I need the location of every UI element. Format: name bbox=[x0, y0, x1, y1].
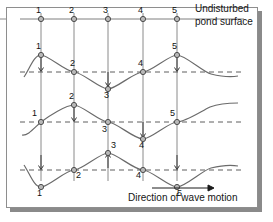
motion-arrow-1a bbox=[39, 56, 44, 72]
particle-label-3-1: 1 bbox=[37, 188, 42, 198]
particle-marker-1-5 bbox=[174, 52, 179, 57]
particle-label-1-5: 5 bbox=[172, 41, 177, 51]
wave-curve-row2 bbox=[22, 103, 238, 139]
particle-marker-0-1 bbox=[38, 16, 43, 21]
undisturbed-surface-label-line2: pond surface bbox=[195, 16, 253, 28]
particle-label-2-2: 2 bbox=[69, 91, 74, 101]
particle-label-2-3: 3 bbox=[102, 124, 107, 134]
wave-direction-arrow-head bbox=[208, 185, 214, 191]
particle-label-2-5: 5 bbox=[170, 108, 175, 118]
particle-marker-1-2 bbox=[71, 69, 76, 74]
particle-marker-3-3 bbox=[105, 150, 110, 155]
particle-label-3-4: 4 bbox=[136, 170, 141, 180]
particle-marker-0-5 bbox=[174, 16, 179, 21]
particle-label-0-5: 5 bbox=[172, 5, 177, 15]
particle-marker-0-4 bbox=[140, 16, 145, 21]
motion-arrow-1c bbox=[175, 56, 180, 72]
wave-direction-arrow-icon bbox=[152, 185, 214, 191]
particle-label-0-1: 1 bbox=[36, 5, 41, 15]
particle-label-1-1: 1 bbox=[36, 41, 41, 51]
particle-label-0-2: 2 bbox=[69, 5, 74, 15]
motion-arrow-2b bbox=[141, 122, 146, 138]
particle-label-0-3: 3 bbox=[103, 5, 108, 15]
particle-marker-1-1 bbox=[38, 52, 43, 57]
particle-label-3-2: 2 bbox=[76, 170, 81, 180]
motion-arrow-stubs-row1 bbox=[39, 56, 180, 87]
motion-arrow-3c bbox=[175, 155, 180, 170]
particle-label-2-4: 4 bbox=[139, 140, 144, 150]
motion-arrow-2a bbox=[72, 106, 77, 122]
particle-marker-2-5 bbox=[174, 119, 179, 124]
motion-arrow-1b bbox=[106, 72, 111, 87]
particle-label-1-4: 4 bbox=[138, 58, 143, 68]
undisturbed-surface-label-line1: Undisturbed bbox=[195, 3, 249, 15]
particle-label-3-3: 3 bbox=[111, 140, 116, 150]
particle-marker-2-2 bbox=[71, 102, 76, 107]
particle-label-2-1: 1 bbox=[32, 108, 37, 118]
particle-marker-2-1 bbox=[38, 119, 43, 124]
particle-marker-3-4 bbox=[140, 167, 145, 172]
particle-label-1-3: 3 bbox=[104, 90, 109, 100]
particle-marker-0-3 bbox=[105, 16, 110, 21]
particle-marker-1-4 bbox=[140, 69, 145, 74]
wave-diagram-figure: 1 2 3 4 5 1 2 3 4 5 1 2 3 4 5 1 2 3 4 5 … bbox=[0, 0, 273, 222]
motion-arrow-3a bbox=[39, 155, 44, 170]
particle-label-1-2: 2 bbox=[70, 58, 75, 68]
particle-marker-0-2 bbox=[71, 16, 76, 21]
particle-label-0-4: 4 bbox=[138, 5, 143, 15]
wave-direction-label: Direction of wave motion bbox=[128, 192, 238, 204]
